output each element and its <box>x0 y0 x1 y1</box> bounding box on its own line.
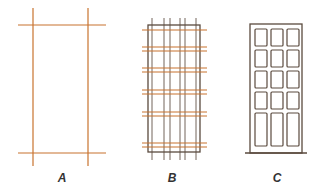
window-c <box>287 92 299 109</box>
label-a: A <box>58 171 67 185</box>
label-c: C <box>273 171 282 185</box>
window-c <box>255 29 267 46</box>
window-c <box>255 113 267 146</box>
window-c <box>271 71 283 88</box>
frame-diagram <box>0 0 315 191</box>
window-c <box>287 50 299 67</box>
label-b: B <box>168 171 177 185</box>
window-c <box>255 92 267 109</box>
window-c <box>287 113 299 146</box>
window-c <box>271 50 283 67</box>
window-c <box>287 29 299 46</box>
window-c <box>255 50 267 67</box>
window-c <box>271 92 283 109</box>
window-c <box>255 71 267 88</box>
frame-outline-b <box>148 25 200 152</box>
window-c <box>287 71 299 88</box>
window-c <box>271 29 283 46</box>
window-c <box>271 113 283 146</box>
